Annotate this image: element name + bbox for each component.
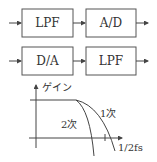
y-axis-label: ゲイン [42, 82, 72, 93]
x-axis-label: 1/2fs [118, 142, 143, 153]
block-row-2: D/A LPF [9, 47, 148, 75]
first-order-label: 1次 [100, 107, 116, 119]
diagram-canvas: LPF A/D D/A LPF ゲイン 1次 2次 1/2fs [0, 0, 157, 162]
da-label: D/A [36, 54, 59, 68]
gain-graph: ゲイン 1次 2次 1/2fs [29, 82, 143, 156]
block-row-1: LPF A/D [9, 9, 148, 37]
second-order-label: 2次 [61, 118, 77, 130]
ad-label: A/D [99, 16, 122, 30]
lpf-label: LPF [99, 54, 123, 68]
lpf-label: LPF [35, 16, 59, 30]
